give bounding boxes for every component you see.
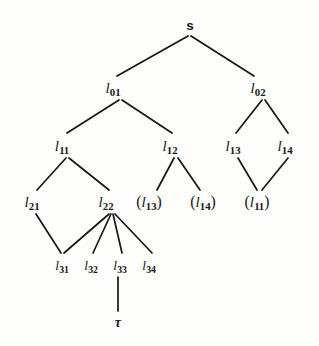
tree-edge-l21-l31 [36,214,61,253]
tree-edge-l01-l12 [122,100,172,133]
tree-edge-l01-l11 [67,100,119,133]
tree-node-l13[interactable]: l13 [226,138,241,154]
tree-edges [36,36,288,311]
tree-node-label-paren-l11: (l11) [244,194,269,210]
tree-edge-l12-pl13 [157,158,174,190]
tree-node-l32[interactable]: l32 [84,257,97,273]
subscript-l13: 13 [230,144,241,156]
tree-node-s[interactable]: s [186,17,194,33]
tree-node-l34[interactable]: l34 [142,257,155,273]
tree-node-paren-l13[interactable]: (l13) [136,194,162,210]
tree-node-label-l14: l14 [278,138,293,154]
base-pl14: l [196,194,200,210]
tree-edge-l13-pl11 [238,158,257,190]
tree-node-l21[interactable]: l21 [25,194,40,210]
tree-edge-l12-pl14 [178,158,200,190]
subscript-l12: 12 [167,144,178,156]
tree-node-tau[interactable]: τ [115,314,121,330]
tree-node-label-l33: l33 [113,258,126,273]
tree-node-l01[interactable]: l01 [106,80,121,96]
tree-node-label-l31: l31 [55,258,68,273]
tree-node-l12[interactable]: l12 [163,138,178,154]
subscript-l01: 01 [110,86,121,98]
tree-edge-l22-l31 [64,214,109,253]
tree-node-label-l34: l34 [142,258,155,273]
tree-node-label-s: s [186,18,194,33]
tree-edge-s-l01 [117,36,188,76]
subscript-l11: 11 [59,144,69,156]
subscript-l32: 32 [88,264,98,275]
proof-tree-figure: s l01 l02 l11 l12 l13 l14 l21 [0,0,319,346]
subscript-l21: 21 [29,200,40,212]
subscript-l14: 14 [282,144,293,156]
tree-node-label-l01: l01 [106,80,121,96]
tree-edge-l02-l13 [236,100,262,133]
tree-node-label-l12: l12 [163,138,178,154]
tree-node-l33[interactable]: l33 [113,257,126,273]
close-paren-pl13: ) [156,193,161,210]
close-paren-pl11: ) [264,193,269,210]
subscript-l34: 34 [146,264,156,275]
tree-node-l14[interactable]: l14 [278,138,293,154]
subscript-l33: 33 [117,264,127,275]
tree-edge-l11-l21 [37,158,66,190]
tree-edge-l22-l34 [115,214,152,253]
tree-node-l31[interactable]: l31 [55,257,68,273]
subscript-l31: 31 [59,264,69,275]
tree-node-label-paren-l13: (l13) [136,194,162,210]
subscript-l02: 02 [255,86,266,98]
base-pl11: l [250,194,254,210]
subscript-l22: 22 [103,200,114,212]
tree-edge-layer [0,0,319,346]
tree-edge-s-l02 [191,36,254,76]
subscript-pl14: 14 [200,200,211,212]
close-paren-pl14: ) [210,193,215,210]
tree-edge-l02-l14 [265,100,288,133]
tree-node-label-paren-l14: (l14) [190,194,216,210]
tree-node-l02[interactable]: l02 [251,80,266,96]
tree-edge-l14-pl11 [262,158,288,190]
tree-node-paren-l14[interactable]: (l14) [190,194,216,210]
tree-node-label-l22: l22 [99,194,114,210]
tree-edge-l22-l32 [93,214,111,253]
tree-node-label-l02: l02 [251,80,266,96]
tree-node-label-tau: τ [115,315,121,330]
base-pl13: l [142,194,146,210]
tree-node-paren-l11[interactable]: (l11) [244,194,269,210]
tree-node-label-l13: l13 [226,138,241,154]
tree-node-label-l21: l21 [25,194,40,210]
tree-node-l22[interactable]: l22 [99,194,114,210]
tree-node-label-l32: l32 [84,258,97,273]
tree-node-label-l11: l11 [55,138,69,154]
subscript-pl11: 11 [254,200,264,212]
tree-node-l11[interactable]: l11 [55,138,69,154]
tree-edge-l11-l22 [69,158,109,190]
tree-edge-l22-l33 [113,214,122,253]
subscript-pl13: 13 [146,200,157,212]
